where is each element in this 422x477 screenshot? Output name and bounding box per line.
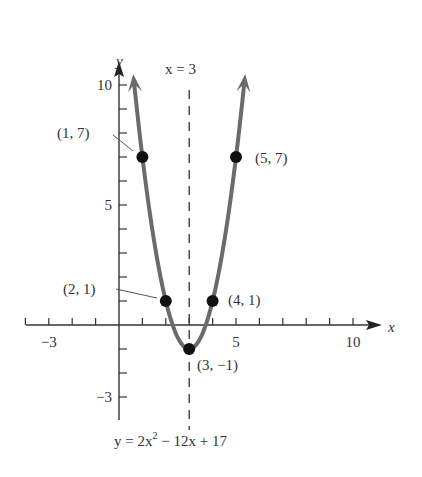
- y-tick-label: −3: [96, 389, 112, 405]
- y-tick-label: 10: [97, 77, 112, 93]
- data-point: [207, 295, 219, 307]
- leader-line: [116, 289, 157, 298]
- point-label: (4, 1): [228, 292, 261, 309]
- point-label: (2, 1): [63, 281, 96, 298]
- data-point: [136, 151, 148, 163]
- parabola-chart: −3510105−3(1, 7)(5, 7)(2, 1)(4, 1)(3, −1…: [0, 0, 422, 477]
- point-label: (3, −1): [197, 357, 238, 374]
- y-tick-label: 5: [105, 197, 113, 213]
- y-axis-label: y: [114, 53, 123, 69]
- x-tick-label: 5: [232, 334, 240, 350]
- equation-label: y = 2x2 − 12x + 17: [114, 430, 227, 449]
- axis-of-symmetry-label: x = 3: [165, 61, 196, 77]
- equation-post: − 12x + 17: [157, 433, 227, 449]
- data-point: [230, 151, 242, 163]
- data-point: [160, 295, 172, 307]
- labels: −3510105−3(1, 7)(5, 7)(2, 1)(4, 1)(3, −1…: [41, 77, 361, 405]
- point-label: (1, 7): [57, 125, 90, 142]
- point-label: (5, 7): [255, 150, 288, 167]
- x-axis-label: x: [387, 319, 395, 335]
- x-tick-label: −3: [41, 334, 57, 350]
- equation-pre: y = 2x: [114, 433, 153, 449]
- x-tick-label: 10: [346, 334, 361, 350]
- leader-line: [113, 135, 133, 151]
- data-point: [183, 343, 195, 355]
